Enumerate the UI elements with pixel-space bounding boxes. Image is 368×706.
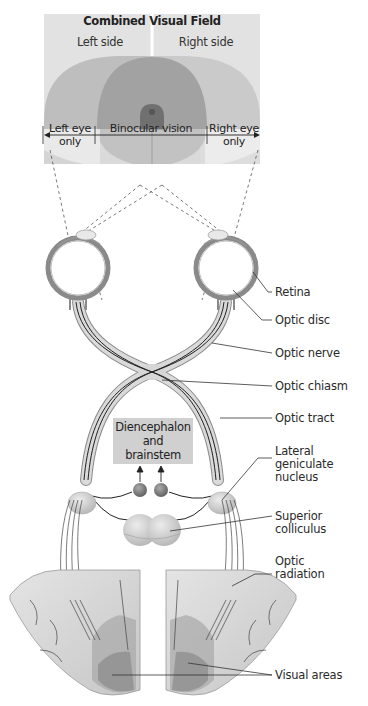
or-line-2: radiation xyxy=(275,568,325,581)
label-lateral-geniculate-nucleus: Lateral geniculate nucleus xyxy=(275,445,333,484)
lgn-line-3: nucleus xyxy=(275,471,333,484)
lgn-right xyxy=(208,492,236,514)
pretectal-nucleus-left xyxy=(133,483,147,497)
left-eye-only-line2: only xyxy=(44,135,96,148)
label-optic-tract: Optic tract xyxy=(275,412,334,425)
diencephalon-brainstem-label: Diencephalon and brainstem xyxy=(113,420,193,462)
label-visual-areas: Visual areas xyxy=(275,669,342,682)
right-eye-only-line2: only xyxy=(207,135,261,148)
superior-colliculus xyxy=(123,514,181,546)
left-eye-only-line1: Left eye xyxy=(44,122,96,135)
right-side-label: Right side xyxy=(154,35,258,49)
left-eye-only-label: Left eye only xyxy=(44,122,96,148)
box-line-3: brainstem xyxy=(113,448,193,462)
box-line-1: Diencephalon xyxy=(113,420,193,434)
label-optic-nerve: Optic nerve xyxy=(275,347,340,360)
brainstem-arrows xyxy=(137,466,164,482)
label-optic-radiation: Optic radiation xyxy=(275,555,325,581)
binocular-vision-label: Binocular vision xyxy=(96,122,206,135)
left-eye xyxy=(48,230,108,310)
right-eye xyxy=(196,230,256,310)
visual-field-title: Combined Visual Field xyxy=(44,14,260,28)
lgn-left xyxy=(68,492,96,514)
label-superior-colliculus: Superior colliculus xyxy=(275,510,326,536)
pretectal-nucleus-right xyxy=(154,483,168,497)
right-eye-only-line1: Right eye xyxy=(207,122,261,135)
right-eye-only-label: Right eye only xyxy=(207,122,261,148)
label-optic-chiasm: Optic chiasm xyxy=(275,380,348,393)
label-optic-disc: Optic disc xyxy=(275,314,330,327)
sc-line-2: colliculus xyxy=(275,523,326,536)
left-occipital-lobe xyxy=(10,570,140,695)
box-line-2: and xyxy=(113,434,193,448)
label-retina: Retina xyxy=(275,286,310,299)
left-side-label: Left side xyxy=(48,35,152,49)
